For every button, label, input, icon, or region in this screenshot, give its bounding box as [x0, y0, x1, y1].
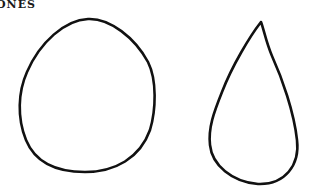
teardrop-shape-outline: [210, 22, 298, 184]
egg-shape-outline: [20, 19, 155, 172]
shapes-canvas: [0, 0, 317, 196]
